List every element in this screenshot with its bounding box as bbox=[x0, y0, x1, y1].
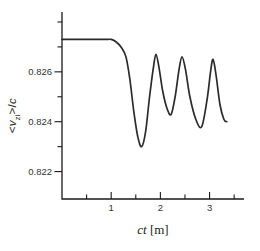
ylabel-denominator: c bbox=[6, 98, 18, 104]
x-tick-labels: 123 bbox=[109, 202, 213, 213]
ylabel-slash: / bbox=[6, 104, 18, 107]
x-axis-label: ct [m] bbox=[62, 222, 244, 238]
ylabel-variable: v bbox=[6, 120, 18, 126]
svg-text:2: 2 bbox=[158, 202, 163, 213]
y-axis-ticks bbox=[55, 22, 63, 172]
svg-text:3: 3 bbox=[207, 202, 212, 213]
figure: 0.8220.8240.826123 <vzi>/c ct [m] bbox=[0, 0, 260, 251]
xlabel-unit: [m] bbox=[147, 222, 169, 237]
ylabel-open-bracket: < bbox=[6, 126, 18, 133]
xlabel-variable: ct bbox=[137, 222, 146, 237]
line-chart: 0.8220.8240.826123 bbox=[0, 0, 260, 251]
velocity-curve bbox=[62, 39, 227, 146]
ylabel-close-bracket: > bbox=[6, 108, 18, 115]
svg-text:0.826: 0.826 bbox=[28, 66, 52, 77]
x-axis-ticks bbox=[87, 192, 235, 199]
y-axis-label: <vzi>/c bbox=[6, 68, 21, 164]
ylabel-subscript: zi bbox=[13, 114, 22, 120]
svg-text:1: 1 bbox=[109, 202, 114, 213]
y-tick-labels: 0.8220.8240.826 bbox=[28, 66, 52, 177]
svg-text:0.824: 0.824 bbox=[28, 116, 52, 127]
svg-text:0.822: 0.822 bbox=[28, 166, 52, 177]
